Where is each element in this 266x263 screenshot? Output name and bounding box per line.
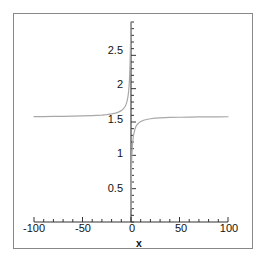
x-tick-label: -100	[14, 223, 54, 234]
y-tick-label: 2.5	[93, 45, 123, 56]
x-tick-label: 50	[161, 223, 201, 234]
x-tick-label: -50	[63, 223, 103, 234]
y-tick-label: 1	[93, 148, 123, 159]
y-tick-label: 1.5	[93, 114, 123, 125]
y-tick-label: 2	[93, 79, 123, 90]
data-curve-left-branch	[34, 22, 131, 117]
x-tick-label: 100	[209, 223, 249, 234]
x-axis-title: x	[119, 238, 159, 249]
y-tick-label: 0.5	[93, 183, 123, 194]
x-tick-label: 0	[112, 223, 152, 234]
figure: 2.5 2 1.5 1 0.5 -100 -50 0 50 100 x	[0, 0, 266, 263]
data-curve-right-branch	[131, 117, 228, 209]
